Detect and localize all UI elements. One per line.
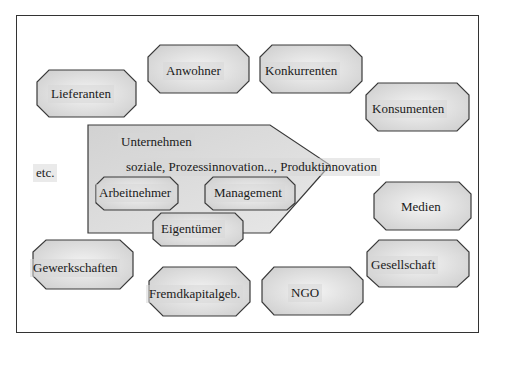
label-unternehmen: Unternehmen [118, 133, 195, 151]
label-konkurrenten: Konkurrenten [262, 62, 340, 80]
label-gewerkschaften: Gewerkschaften [30, 259, 120, 277]
label-lieferanten: Lieferanten [48, 85, 114, 103]
label-arbeitnehmer: Arbeitnehmer [96, 184, 174, 202]
label-management: Management [211, 184, 285, 202]
label-konsumenten: Konsumenten [369, 100, 447, 118]
label-innovation: soziale, Prozessinnovation..., Produktin… [123, 158, 380, 176]
label-anwohner: Anwohner [163, 62, 224, 80]
label-eigentuemer: Eigentümer [158, 220, 225, 238]
label-ngo: NGO [288, 284, 322, 302]
label-fremdkapital: Fremdkapitalgeb. [146, 285, 243, 303]
label-medien: Medien [398, 198, 444, 216]
label-gesellschaft: Gesellschaft [368, 256, 438, 274]
label-etc: etc. [33, 164, 57, 182]
